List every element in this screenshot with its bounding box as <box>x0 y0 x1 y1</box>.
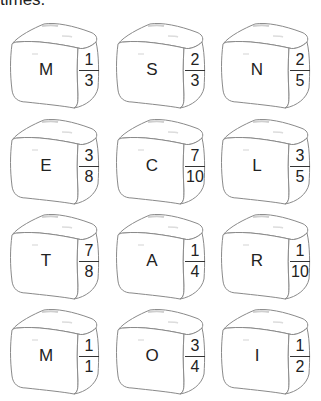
fraction-numerator: 2 <box>289 52 311 68</box>
fraction-bar <box>185 261 205 262</box>
fraction-bar <box>79 261 99 262</box>
cube-fraction: 2 3 <box>184 52 206 89</box>
fraction-bar <box>79 70 99 71</box>
ice-cube: A 1 4 <box>110 205 210 301</box>
fraction-denominator: 5 <box>289 169 311 185</box>
cube-fraction: 7 10 <box>184 148 206 185</box>
fraction-numerator: 1 <box>184 243 206 259</box>
ice-cube: E 3 8 <box>4 110 104 206</box>
fraction-numerator: 1 <box>78 52 100 68</box>
ice-cube: R 1 10 <box>215 205 315 301</box>
fraction-denominator: 10 <box>289 264 311 280</box>
cube-fraction: 1 10 <box>289 243 311 280</box>
fraction-denominator: 3 <box>184 73 206 89</box>
fraction-numerator: 2 <box>184 52 206 68</box>
fraction-numerator: 3 <box>184 338 206 354</box>
fraction-bar <box>79 166 99 167</box>
fraction-denominator: 10 <box>184 169 206 185</box>
fraction-bar <box>79 356 99 357</box>
cube-letter: N <box>247 60 267 80</box>
fraction-numerator: 1 <box>78 338 100 354</box>
ice-cube: I 1 2 <box>215 300 315 396</box>
cube-letter: A <box>142 251 162 271</box>
fraction-numerator: 7 <box>184 148 206 164</box>
cube-fraction: 3 8 <box>78 148 100 185</box>
ice-cube: T 7 8 <box>4 205 104 301</box>
cube-letter: C <box>142 156 162 176</box>
ice-cube: L 3 5 <box>215 110 315 206</box>
fraction-numerator: 3 <box>289 148 311 164</box>
cube-letter: I <box>247 346 267 366</box>
cube-letter: L <box>247 156 267 176</box>
ice-cube: C 7 10 <box>110 110 210 206</box>
fraction-numerator: 1 <box>289 243 311 259</box>
fraction-bar <box>185 70 205 71</box>
fraction-denominator: 5 <box>289 73 311 89</box>
cube-letter: O <box>142 346 162 366</box>
cube-fraction: 3 4 <box>184 338 206 375</box>
ice-cube: N 2 5 <box>215 14 315 110</box>
fraction-denominator: 4 <box>184 359 206 375</box>
fraction-bar <box>290 166 310 167</box>
header-partial-text: times. <box>0 0 45 8</box>
fraction-bar <box>185 166 205 167</box>
ice-cube: M 1 1 <box>4 300 104 396</box>
cube-letter: R <box>247 251 267 271</box>
ice-cube: M 1 3 <box>4 14 104 110</box>
fraction-bar <box>290 70 310 71</box>
fraction-denominator: 4 <box>184 264 206 280</box>
cube-fraction: 1 2 <box>289 338 311 375</box>
fraction-bar <box>185 356 205 357</box>
fraction-denominator: 1 <box>78 359 100 375</box>
cube-letter: T <box>36 251 56 271</box>
fraction-denominator: 8 <box>78 169 100 185</box>
cube-letter: M <box>36 346 56 366</box>
ice-cube: O 3 4 <box>110 300 210 396</box>
ice-cube: S 2 3 <box>110 14 210 110</box>
fraction-numerator: 3 <box>78 148 100 164</box>
cube-fraction: 1 1 <box>78 338 100 375</box>
fraction-denominator: 8 <box>78 264 100 280</box>
fraction-numerator: 1 <box>289 338 311 354</box>
cube-fraction: 1 3 <box>78 52 100 89</box>
cube-fraction: 3 5 <box>289 148 311 185</box>
cube-fraction: 7 8 <box>78 243 100 280</box>
fraction-denominator: 3 <box>78 73 100 89</box>
cube-letter: S <box>142 60 162 80</box>
fraction-denominator: 2 <box>289 359 311 375</box>
fraction-bar <box>290 356 310 357</box>
cube-letter: E <box>36 156 56 176</box>
cube-fraction: 2 5 <box>289 52 311 89</box>
cube-letter: M <box>36 60 56 80</box>
fraction-numerator: 7 <box>78 243 100 259</box>
fraction-bar <box>290 261 310 262</box>
cube-fraction: 1 4 <box>184 243 206 280</box>
